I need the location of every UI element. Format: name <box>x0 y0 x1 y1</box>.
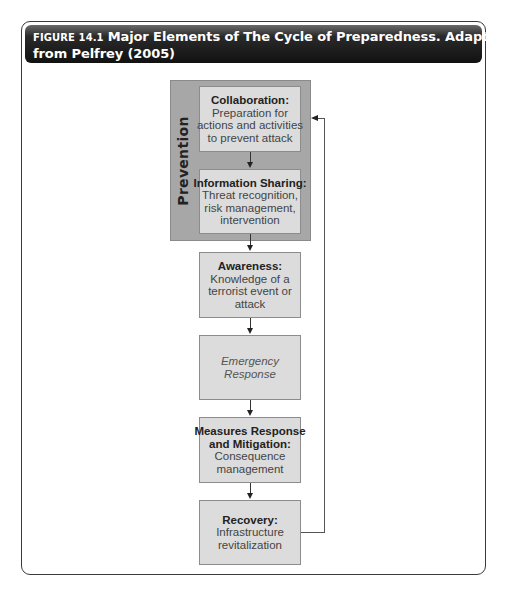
arrowhead-left-icon <box>311 115 318 121</box>
figure-label: FIGURE 14.1 <box>33 32 104 43</box>
figure-title-line-1: FIGURE 14.1Major Elements of The Cycle o… <box>33 29 474 46</box>
feedback-line-vertical <box>324 118 325 533</box>
feedback-line-bottom <box>301 532 325 533</box>
arrowhead-down-icon <box>247 410 253 416</box>
prevention-label: Prevention <box>169 80 197 241</box>
node-collaboration: Collaboration: Preparation for actions a… <box>199 86 301 152</box>
node-recovery: Recovery: Infrastructure revitalization <box>199 500 301 565</box>
figure-title-line-2: from Pelfrey (2005) <box>33 46 474 62</box>
node-emergency-response: Emergency Response <box>199 335 301 400</box>
arrowhead-down-icon <box>247 493 253 499</box>
arrowhead-down-icon <box>247 328 253 334</box>
node-measures-response-mitigation: Measures Response and Mitigation: Conseq… <box>199 417 301 483</box>
node-awareness: Awareness: Knowledge of a terrorist even… <box>199 252 301 318</box>
arrowhead-down-icon <box>247 245 253 251</box>
node-information-sharing: Information Sharing: Threat recognition,… <box>199 169 301 234</box>
arrowhead-down-icon <box>247 162 253 168</box>
figure-header: FIGURE 14.1Major Elements of The Cycle o… <box>25 25 482 63</box>
